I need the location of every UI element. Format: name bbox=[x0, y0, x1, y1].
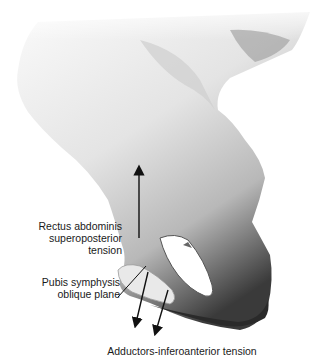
label-line: superoposterior bbox=[39, 232, 122, 244]
label-line: Pubis symphysis bbox=[42, 276, 120, 288]
rectus-abdominis-label: Rectus abdominis superoposterior tension bbox=[39, 220, 122, 256]
pelvis-illustration bbox=[0, 0, 324, 363]
label-line: tension bbox=[39, 244, 122, 256]
pubis-symphysis-label: Pubis symphysis oblique plane bbox=[42, 276, 120, 300]
adductors-label: Adductors-inferoanterior tension bbox=[0, 345, 324, 357]
label-line: oblique plane bbox=[42, 288, 120, 300]
label-line: Adductors-inferoanterior tension bbox=[40, 345, 324, 357]
label-line: Rectus abdominis bbox=[39, 220, 122, 232]
